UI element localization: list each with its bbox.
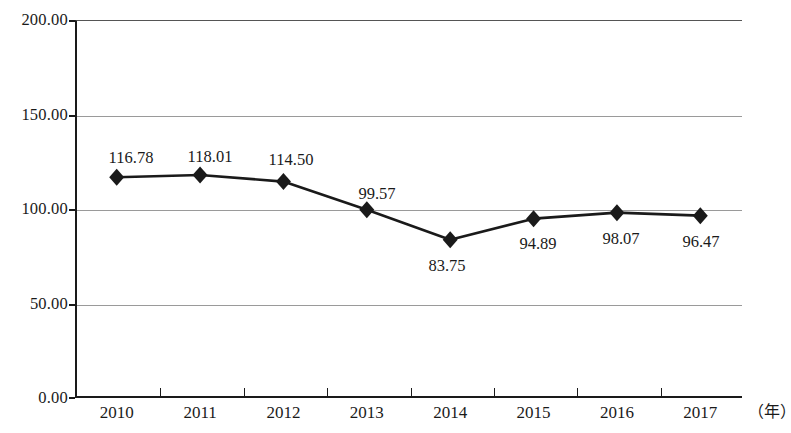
point-label-2013: 99.57 [358,186,395,203]
x-tick-label-2010: 2010 [100,404,134,421]
point-label-2015: 94.89 [519,236,556,253]
x-tick-mark-5 [494,388,495,396]
x-tick-mark-7 [661,388,662,396]
x-axis-unit-label: （年） [748,404,791,420]
x-tick-label-2014: 2014 [433,404,467,421]
point-label-2011: 118.01 [188,149,233,166]
x-tick-mark-3 [327,388,328,396]
x-tick-label-2011: 2011 [183,404,216,421]
x-tick-label-2017: 2017 [683,404,717,421]
y-axis-labels: 200.00 150.00 100.00 50.00 0.00 [0,0,68,433]
plot-area [75,20,742,398]
point-label-2010: 116.78 [109,150,154,167]
gridline-50 [77,305,742,306]
point-label-2014: 83.75 [428,258,465,275]
x-tick-label-2016: 2016 [600,404,634,421]
x-tick-label-2013: 2013 [350,404,384,421]
point-label-2016: 98.07 [602,231,639,248]
x-tick-mark-2 [244,388,245,396]
x-tick-label-2015: 2015 [517,404,551,421]
x-tick-mark-4 [411,388,412,396]
x-tick-mark-1 [160,388,161,396]
point-label-2017: 96.47 [682,234,719,251]
gridline-150 [77,116,742,117]
x-tick-mark-6 [577,388,578,396]
point-label-2012: 114.50 [269,152,314,169]
gridline-100 [77,210,742,211]
y-tick-label-200: 200.00 [21,12,68,29]
y-tick-label-100: 100.00 [21,201,68,218]
y-tick-label-150: 150.00 [21,106,68,123]
x-tick-label-2012: 2012 [266,404,300,421]
y-tick-label-50: 50.00 [30,295,68,312]
line-chart: 200.00 150.00 100.00 50.00 0.00 2010 201… [0,0,791,433]
y-tick-label-0: 0.00 [38,390,68,407]
